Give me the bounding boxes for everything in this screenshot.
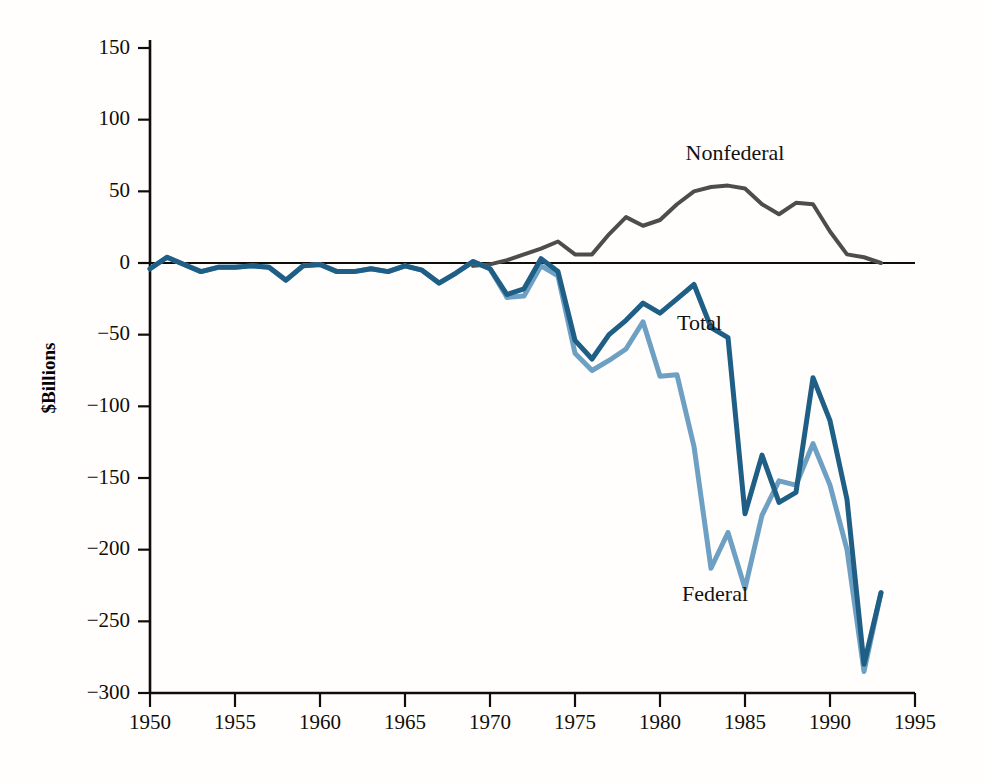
total-label: Total bbox=[677, 310, 722, 335]
chart-container: $Billions 150100500−50−100−150−200−250−3… bbox=[0, 0, 985, 784]
x-tick-label: 1975 bbox=[554, 710, 596, 734]
y-tick-label: 50 bbox=[109, 178, 130, 202]
y-tick-label: −200 bbox=[87, 536, 130, 560]
x-tick-label: 1970 bbox=[469, 710, 511, 734]
series-line-nonfederal bbox=[473, 186, 881, 266]
x-tick-label: 1980 bbox=[639, 710, 681, 734]
x-axis-ticks: 1950195519601965197019751980198519901995 bbox=[129, 693, 936, 734]
series-line-federal bbox=[150, 257, 881, 671]
x-tick-label: 1950 bbox=[129, 710, 171, 734]
x-tick-label: 1955 bbox=[214, 710, 256, 734]
y-tick-label: −50 bbox=[97, 321, 130, 345]
x-tick-label: 1995 bbox=[894, 710, 936, 734]
y-tick-label: 150 bbox=[99, 35, 131, 59]
x-tick-label: 1990 bbox=[809, 710, 851, 734]
data-series-group bbox=[150, 186, 881, 672]
nonfederal-label: Nonfederal bbox=[686, 140, 785, 165]
x-tick-label: 1965 bbox=[384, 710, 426, 734]
federal-label: Federal bbox=[682, 581, 748, 606]
y-axis-ticks: 150100500−50−100−150−200−250−300 bbox=[87, 35, 150, 704]
series-line-total bbox=[150, 257, 881, 664]
y-tick-label: −100 bbox=[87, 393, 130, 417]
y-axis-title: $Billions bbox=[38, 343, 59, 414]
y-tick-label: −150 bbox=[87, 465, 130, 489]
y-tick-label: −250 bbox=[87, 608, 130, 632]
budget-deficit-line-chart: $Billions 150100500−50−100−150−200−250−3… bbox=[0, 0, 985, 784]
y-tick-label: 0 bbox=[120, 250, 131, 274]
y-tick-label: −300 bbox=[87, 680, 130, 704]
x-tick-label: 1985 bbox=[724, 710, 766, 734]
y-tick-label: 100 bbox=[99, 106, 131, 130]
x-tick-label: 1960 bbox=[299, 710, 341, 734]
